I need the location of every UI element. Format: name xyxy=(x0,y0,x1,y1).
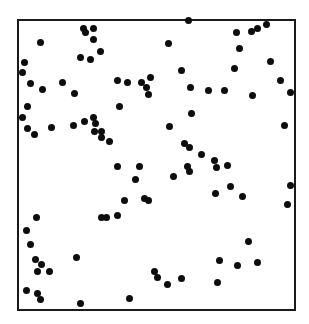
data-point xyxy=(124,79,131,86)
data-point xyxy=(170,173,177,180)
data-point xyxy=(98,134,105,141)
data-point xyxy=(287,182,294,189)
data-point xyxy=(254,25,261,32)
data-point xyxy=(132,176,139,183)
data-point xyxy=(19,114,26,121)
data-point xyxy=(227,183,234,190)
data-point xyxy=(121,197,128,204)
data-point xyxy=(178,67,185,74)
data-point xyxy=(186,144,193,151)
data-point xyxy=(136,163,143,170)
data-point xyxy=(185,17,192,24)
data-point xyxy=(143,84,150,91)
data-point xyxy=(81,118,88,125)
data-point xyxy=(87,56,94,63)
data-point xyxy=(214,279,221,286)
data-point xyxy=(263,21,270,28)
data-point xyxy=(106,138,113,145)
data-point xyxy=(114,163,121,170)
data-point xyxy=(254,259,261,266)
data-point xyxy=(216,257,223,264)
data-point xyxy=(233,29,240,36)
data-point xyxy=(187,84,194,91)
data-point xyxy=(154,274,161,281)
data-point xyxy=(73,254,80,261)
data-point xyxy=(46,268,53,275)
data-point xyxy=(284,201,291,208)
data-point xyxy=(91,128,98,135)
data-point xyxy=(211,157,218,164)
data-point xyxy=(59,79,66,86)
data-point xyxy=(38,261,45,268)
data-point xyxy=(33,214,40,221)
data-point xyxy=(34,268,41,275)
data-point xyxy=(39,86,46,93)
data-point xyxy=(23,287,30,294)
data-point xyxy=(165,40,172,47)
data-point xyxy=(114,212,121,219)
data-point xyxy=(24,103,31,110)
data-point xyxy=(205,87,212,94)
data-point xyxy=(198,151,205,158)
data-point xyxy=(186,168,193,175)
data-point xyxy=(77,54,84,61)
data-point xyxy=(32,256,39,263)
data-point xyxy=(27,80,34,87)
data-point xyxy=(90,36,97,43)
data-point xyxy=(212,190,219,197)
data-point xyxy=(236,45,243,52)
data-point xyxy=(224,162,231,169)
data-point xyxy=(188,110,195,117)
data-point xyxy=(97,48,104,55)
data-point xyxy=(24,125,31,132)
data-point xyxy=(239,193,246,200)
data-point xyxy=(178,275,185,282)
data-point xyxy=(145,197,152,204)
data-point xyxy=(48,124,55,131)
data-point xyxy=(166,123,173,130)
data-point xyxy=(287,89,294,96)
data-point xyxy=(164,281,171,288)
data-point xyxy=(145,91,152,98)
plot-frame xyxy=(17,19,296,311)
data-point xyxy=(37,39,44,46)
data-point xyxy=(70,122,77,129)
data-point xyxy=(126,295,133,302)
data-point xyxy=(231,65,238,72)
data-point xyxy=(281,122,288,129)
data-point xyxy=(277,77,284,84)
data-point xyxy=(234,262,241,269)
data-point xyxy=(82,29,89,36)
data-point xyxy=(23,227,30,234)
data-point xyxy=(114,77,121,84)
data-point xyxy=(249,92,256,99)
data-point xyxy=(77,300,84,307)
data-point xyxy=(21,59,28,66)
data-point xyxy=(116,103,123,110)
data-point xyxy=(90,25,97,32)
scatter-plot xyxy=(0,0,309,324)
data-point xyxy=(245,238,252,245)
data-point xyxy=(267,58,274,65)
data-point xyxy=(213,164,220,171)
data-point xyxy=(71,90,78,97)
data-point xyxy=(31,131,38,138)
data-point xyxy=(92,120,99,127)
data-point xyxy=(98,214,105,221)
data-point xyxy=(27,241,34,248)
data-point xyxy=(37,296,44,303)
data-point xyxy=(221,87,228,94)
data-point xyxy=(147,74,154,81)
data-point xyxy=(19,69,26,76)
